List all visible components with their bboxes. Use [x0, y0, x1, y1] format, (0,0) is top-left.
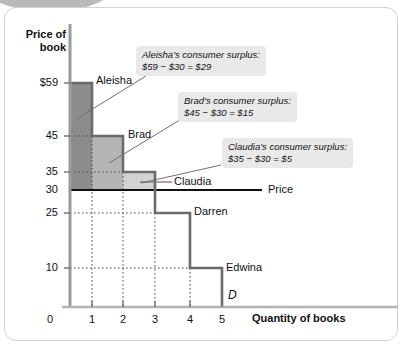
- callout-aleisha-surplus: Aleisha's consumer surplus: $59 − $30 = …: [136, 46, 266, 76]
- x-tick-label-2: 2: [115, 313, 131, 325]
- callout-brad-line2: $45 − $30 = $15: [184, 107, 291, 119]
- x-tick-label-4: 4: [182, 313, 198, 325]
- surplus-area-brad: [92, 136, 123, 190]
- callout-claudia-surplus: Claudia's consumer surplus: $35 − $30 = …: [222, 138, 353, 168]
- callout-aleisha-line2: $59 − $30 = $29: [142, 61, 260, 73]
- surplus-area-aleisha: [70, 83, 92, 190]
- y-tick-label-10: 10: [18, 261, 58, 273]
- y-tick-label-25: 25: [18, 206, 58, 218]
- callout-aleisha-line1: Aleisha's consumer surplus:: [142, 49, 260, 61]
- x-tick-label-0: 0: [42, 313, 58, 325]
- price-line-label: Price: [268, 183, 293, 195]
- callout-claudia-line2: $35 − $30 = $5: [228, 153, 347, 165]
- callout-claudia-line1: Claudia's consumer surplus:: [228, 141, 347, 153]
- y-axis-title-line2: book: [8, 41, 66, 54]
- x-axis-title: Quantity of books: [252, 312, 346, 325]
- y-tick-label-59: $59: [18, 76, 58, 88]
- demand-curve-label: D: [228, 288, 237, 302]
- x-tick-label-5: 5: [214, 313, 230, 325]
- series-label-darren: Darren: [194, 205, 228, 217]
- series-label-aleisha: Aleisha: [96, 74, 132, 86]
- callout-brad-surplus: Brad's consumer surplus: $45 − $30 = $15: [178, 92, 297, 122]
- y-tick-label-35: 35: [18, 165, 58, 177]
- series-label-claudia: Claudia: [174, 175, 211, 187]
- series-label-edwina: Edwina: [226, 261, 262, 273]
- y-axis-title-line1: Price of: [8, 28, 66, 41]
- series-label-brad: Brad: [128, 128, 151, 140]
- x-tick-label-3: 3: [147, 313, 163, 325]
- x-tick-label-1: 1: [84, 313, 100, 325]
- y-tick-label-45: 45: [18, 129, 58, 141]
- y-tick-label-30: 30: [18, 183, 58, 195]
- figure-container: Price of book Quantity of books $59 45 3…: [0, 0, 406, 353]
- y-axis-title: Price of book: [8, 28, 66, 54]
- callout-brad-line1: Brad's consumer surplus:: [184, 95, 291, 107]
